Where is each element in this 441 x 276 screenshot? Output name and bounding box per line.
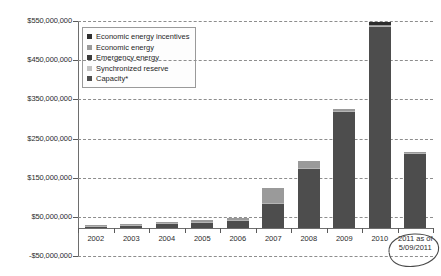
bar-group[interactable] [191, 220, 213, 228]
bar-group[interactable] [85, 225, 107, 228]
y-axis-tick-label: -$50,000,000 [0, 251, 72, 260]
bar-group[interactable] [262, 188, 284, 228]
bar-group[interactable] [156, 222, 178, 228]
bar-segment [227, 221, 249, 228]
x-axis-tick [114, 228, 115, 233]
x-axis-tick-label: 2011 as of5/09/2011 [392, 234, 440, 252]
bar-group[interactable] [369, 22, 391, 228]
bar-chart: Economic energy incentives Economic ener… [0, 0, 441, 276]
x-axis-tick [256, 228, 257, 233]
bar-segment [85, 227, 107, 228]
bar-segment [298, 161, 320, 168]
bar-segment [191, 223, 213, 228]
x-axis-tick [398, 228, 399, 233]
y-axis-tick-label: $350,000,000 [0, 94, 72, 103]
x-axis-tick [220, 228, 221, 233]
bar-segment [369, 27, 391, 228]
x-axis-tick [327, 228, 328, 233]
bar-group[interactable] [227, 218, 249, 228]
plot-area: 2002200320042005200620072008200920102011… [78, 21, 433, 256]
bar-segment [156, 224, 178, 228]
x-axis-tick [362, 228, 363, 233]
gridline [78, 256, 433, 257]
bar-segment [120, 226, 142, 228]
bar-group[interactable] [298, 161, 320, 228]
x-axis-tick [149, 228, 150, 233]
y-axis-tick-label: $550,000,000 [0, 16, 72, 25]
bar-group[interactable] [120, 224, 142, 228]
bar-series-container [78, 21, 433, 256]
bar-group[interactable] [404, 152, 426, 228]
y-axis-tick [73, 256, 78, 257]
bar-segment [404, 154, 426, 228]
x-axis-tick [433, 228, 434, 233]
y-axis-tick-label: $250,000,000 [0, 134, 72, 143]
y-axis-tick-label: $450,000,000 [0, 55, 72, 64]
bar-group[interactable] [333, 109, 355, 228]
x-axis-label-line1: 2011 as of [392, 234, 440, 243]
bar-segment [262, 188, 284, 202]
x-axis-label-line2: 5/09/2011 [392, 243, 440, 252]
x-axis-tick [78, 228, 79, 233]
y-axis-tick-label: $150,000,000 [0, 173, 72, 182]
x-axis-tick [185, 228, 186, 233]
bar-segment [262, 204, 284, 228]
x-axis-tick [291, 228, 292, 233]
bar-segment [298, 169, 320, 228]
y-axis-tick-label: $50,000,000 [0, 212, 72, 221]
bar-segment [333, 112, 355, 228]
